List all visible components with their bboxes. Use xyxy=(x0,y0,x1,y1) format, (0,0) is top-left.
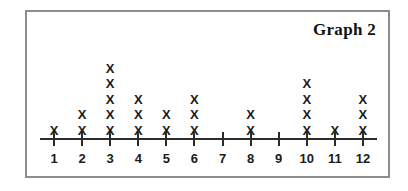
dot-mark: X xyxy=(78,107,87,123)
dot-mark: X xyxy=(302,76,311,92)
dot-plot: XXXXXXXXXXXXXXXXXXXXXXXXXX 1234567891011… xyxy=(27,12,388,176)
dot-column-3: XXXXX xyxy=(97,61,123,139)
graph-frame: Graph 2 XXXXXXXXXXXXXXXXXXXXXXXXXX 12345… xyxy=(25,10,390,178)
tick-label-10: 10 xyxy=(292,151,322,166)
tick-label-7: 7 xyxy=(208,151,238,166)
tick-label-8: 8 xyxy=(236,151,266,166)
dot-mark: X xyxy=(359,107,368,123)
dot-mark: X xyxy=(302,92,311,108)
tick-label-1: 1 xyxy=(39,151,69,166)
tick-label-4: 4 xyxy=(123,151,153,166)
tick-label-2: 2 xyxy=(67,151,97,166)
tick-mark-7 xyxy=(222,132,224,146)
dot-mark: X xyxy=(190,92,199,108)
tick-mark-2 xyxy=(81,132,83,146)
dot-mark: X xyxy=(162,107,171,123)
tick-mark-11 xyxy=(334,132,336,146)
dot-mark: X xyxy=(359,92,368,108)
tick-mark-12 xyxy=(362,132,364,146)
tick-mark-1 xyxy=(53,132,55,146)
dot-mark: X xyxy=(302,107,311,123)
tick-mark-4 xyxy=(137,132,139,146)
dot-mark: X xyxy=(106,92,115,108)
dot-columns-layer: XXXXXXXXXXXXXXXXXXXXXXXXXX xyxy=(40,12,377,138)
tick-mark-10 xyxy=(306,132,308,146)
tick-label-9: 9 xyxy=(264,151,294,166)
tick-mark-9 xyxy=(278,132,280,146)
tick-label-6: 6 xyxy=(179,151,209,166)
tick-mark-6 xyxy=(193,132,195,146)
dot-column-10: XXXX xyxy=(294,76,320,138)
tick-mark-8 xyxy=(250,132,252,146)
dot-mark: X xyxy=(106,61,115,77)
tick-mark-5 xyxy=(165,132,167,146)
tick-mark-3 xyxy=(109,132,111,146)
tick-label-3: 3 xyxy=(95,151,125,166)
tick-label-11: 11 xyxy=(320,151,350,166)
dot-mark: X xyxy=(190,107,199,123)
dot-mark: X xyxy=(246,107,255,123)
dot-mark: X xyxy=(106,107,115,123)
tick-label-12: 12 xyxy=(348,151,378,166)
x-axis-line xyxy=(40,138,377,140)
dot-mark: X xyxy=(106,76,115,92)
dot-mark: X xyxy=(134,107,143,123)
dot-mark: X xyxy=(134,92,143,108)
tick-label-5: 5 xyxy=(151,151,181,166)
